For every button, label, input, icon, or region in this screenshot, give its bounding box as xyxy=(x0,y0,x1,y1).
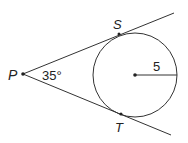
tangent-line-ps xyxy=(23,13,174,74)
center-point xyxy=(133,73,137,77)
point-s xyxy=(118,33,121,36)
label-p: P xyxy=(8,67,18,83)
point-t xyxy=(120,113,123,116)
label-t: T xyxy=(115,120,124,135)
tangent-diagram: P S T 35° 5 xyxy=(0,0,188,143)
point-p xyxy=(21,72,25,76)
angle-label: 35° xyxy=(42,68,62,83)
radius-label: 5 xyxy=(153,59,160,74)
tangent-line-pt xyxy=(23,74,171,135)
label-s: S xyxy=(113,17,122,32)
